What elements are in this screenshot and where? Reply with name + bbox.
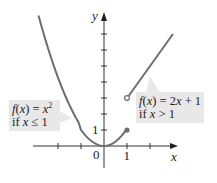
piecewise-function-graph: y x 0 1 1 f(x) = x2 if x ≤ 1 f(x) = 2x +… — [0, 0, 217, 183]
y-axis — [101, 12, 107, 168]
origin-label: 0 — [93, 147, 100, 162]
left-callout-exponent: 2 — [48, 101, 52, 110]
left-callout-line1: f(x) = x2 — [12, 101, 52, 116]
y-tick-label-1: 1 — [92, 122, 99, 137]
y-axis-label: y — [90, 8, 98, 23]
right-callout-line2: if x > 1 — [139, 107, 175, 121]
y-axis-arrow-icon — [101, 12, 107, 21]
left-callout-line2: if x ≤ 1 — [12, 115, 48, 129]
closed-endpoint-dot — [124, 127, 129, 132]
left-callout-pointer — [58, 110, 72, 124]
parabola — [38, 16, 127, 183]
right-callout-line1: f(x) = 2x + 1 — [139, 94, 201, 108]
open-endpoint-circle — [125, 96, 130, 101]
right-callout-pointer — [146, 76, 160, 93]
x-axis-label: x — [170, 149, 177, 164]
x-tick-label-1: 1 — [124, 148, 131, 163]
